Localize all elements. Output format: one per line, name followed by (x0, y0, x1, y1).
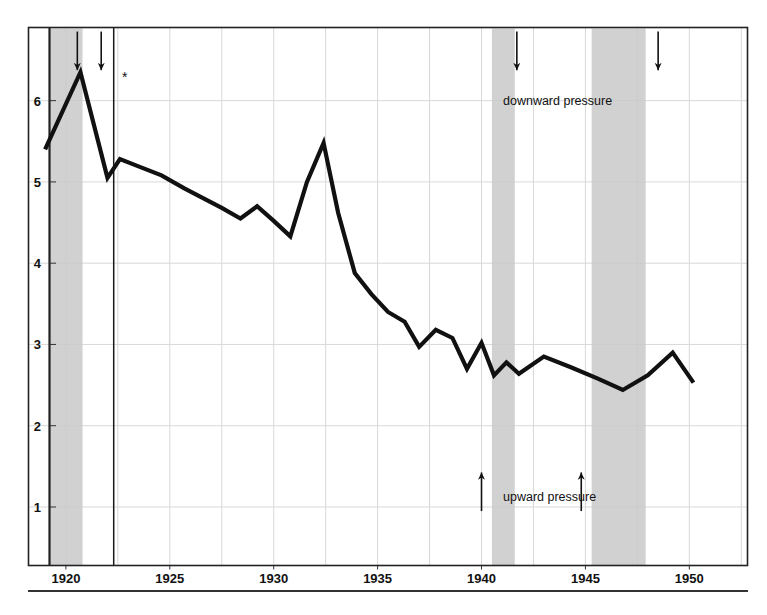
asterisk-marker: * (122, 69, 128, 85)
x-tick-label: 1950 (675, 571, 704, 586)
y-tick-label: 6 (34, 94, 41, 109)
band-2 (492, 29, 515, 566)
y-tick-label: 3 (34, 337, 41, 352)
y-tick-label: 1 (34, 500, 41, 515)
x-tick-label: 1945 (571, 571, 600, 586)
y-tick-label: 5 (34, 175, 41, 190)
upward-pressure-label: upward pressure (503, 490, 596, 504)
x-tick-label: 1935 (363, 571, 392, 586)
line-chart: 1920192519301935194019451950 123456 down… (0, 0, 767, 615)
band-3 (592, 29, 646, 566)
x-tick-label: 1940 (467, 571, 496, 586)
chart-figure: 1920192519301935194019451950 123456 down… (0, 0, 767, 615)
y-tick-label: 4 (34, 256, 42, 271)
downward-pressure-label: downward pressure (503, 94, 612, 108)
x-tick-label: 1925 (155, 571, 184, 586)
x-tick-label: 1930 (259, 571, 288, 586)
x-tick-label: 1920 (51, 571, 80, 586)
y-tick-label: 2 (34, 419, 41, 434)
band-1 (49, 29, 82, 566)
